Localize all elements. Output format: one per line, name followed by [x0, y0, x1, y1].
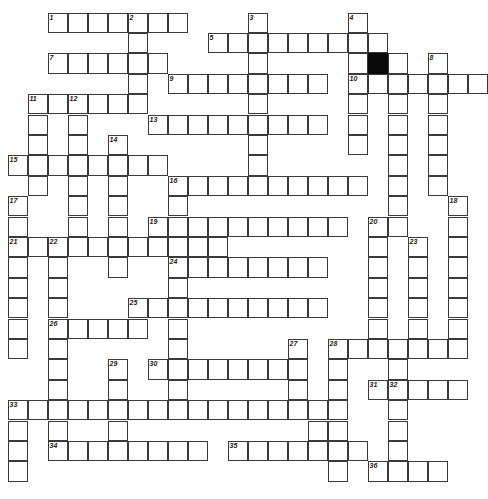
crossword-cell[interactable]	[308, 33, 328, 53]
crossword-cell[interactable]	[88, 155, 108, 175]
crossword-cell[interactable]	[68, 441, 88, 461]
crossword-cell[interactable]	[408, 74, 428, 94]
crossword-cell[interactable]	[208, 237, 228, 257]
crossword-cell[interactable]	[188, 298, 208, 318]
crossword-cell[interactable]	[388, 115, 408, 135]
crossword-cell[interactable]	[108, 217, 128, 237]
crossword-cell[interactable]	[428, 115, 448, 135]
crossword-cell[interactable]	[108, 53, 128, 73]
crossword-cell[interactable]	[308, 176, 328, 196]
crossword-cell[interactable]: 29	[108, 359, 128, 379]
crossword-cell[interactable]	[388, 94, 408, 114]
crossword-cell[interactable]	[188, 176, 208, 196]
crossword-cell[interactable]: 24	[168, 257, 188, 277]
crossword-cell[interactable]	[328, 400, 348, 420]
crossword-cell[interactable]: 5	[208, 33, 228, 53]
crossword-cell[interactable]	[28, 135, 48, 155]
crossword-cell[interactable]	[308, 257, 328, 277]
crossword-cell[interactable]	[348, 33, 368, 53]
crossword-cell[interactable]	[228, 115, 248, 135]
crossword-cell[interactable]	[408, 339, 428, 359]
crossword-cell[interactable]	[308, 298, 328, 318]
crossword-cell[interactable]	[188, 115, 208, 135]
crossword-cell[interactable]	[388, 421, 408, 441]
crossword-cell[interactable]	[108, 155, 128, 175]
crossword-cell[interactable]	[208, 74, 228, 94]
crossword-cell[interactable]	[268, 33, 288, 53]
crossword-cell[interactable]	[168, 339, 188, 359]
crossword-cell[interactable]	[448, 380, 468, 400]
crossword-cell[interactable]	[328, 461, 348, 481]
crossword-cell[interactable]	[248, 217, 268, 237]
crossword-cell[interactable]: 14	[108, 135, 128, 155]
crossword-cell[interactable]	[308, 421, 328, 441]
crossword-cell[interactable]	[268, 176, 288, 196]
crossword-cell[interactable]	[248, 298, 268, 318]
crossword-cell[interactable]	[128, 74, 148, 94]
crossword-cell[interactable]	[168, 441, 188, 461]
crossword-cell[interactable]	[168, 196, 188, 216]
crossword-cell[interactable]	[108, 400, 128, 420]
crossword-cell[interactable]: 31	[368, 380, 388, 400]
crossword-cell[interactable]	[88, 319, 108, 339]
crossword-cell[interactable]: 33	[8, 400, 28, 420]
crossword-cell[interactable]	[468, 74, 488, 94]
crossword-cell[interactable]	[188, 74, 208, 94]
crossword-cell[interactable]	[168, 319, 188, 339]
crossword-cell[interactable]	[8, 441, 28, 461]
crossword-cell[interactable]	[388, 176, 408, 196]
crossword-cell[interactable]	[348, 94, 368, 114]
crossword-cell[interactable]	[388, 74, 408, 94]
crossword-cell[interactable]	[428, 155, 448, 175]
crossword-cell[interactable]	[208, 217, 228, 237]
crossword-cell[interactable]	[8, 298, 28, 318]
crossword-cell[interactable]	[408, 257, 428, 277]
crossword-cell[interactable]	[328, 33, 348, 53]
crossword-cell[interactable]	[268, 74, 288, 94]
crossword-cell[interactable]	[148, 441, 168, 461]
crossword-cell[interactable]: 21	[8, 237, 28, 257]
crossword-cell[interactable]: 12	[68, 94, 88, 114]
crossword-cell[interactable]	[288, 441, 308, 461]
crossword-cell[interactable]	[68, 217, 88, 237]
crossword-cell[interactable]	[48, 257, 68, 277]
crossword-cell[interactable]	[68, 400, 88, 420]
crossword-cell[interactable]	[188, 400, 208, 420]
crossword-cell[interactable]	[268, 359, 288, 379]
crossword-cell[interactable]	[348, 441, 368, 461]
crossword-cell[interactable]: 28	[328, 339, 348, 359]
crossword-cell[interactable]	[168, 380, 188, 400]
crossword-cell[interactable]	[208, 298, 228, 318]
crossword-cell[interactable]	[228, 217, 248, 237]
crossword-cell[interactable]	[28, 155, 48, 175]
crossword-cell[interactable]	[68, 196, 88, 216]
crossword-cell[interactable]	[228, 359, 248, 379]
crossword-cell[interactable]	[48, 94, 68, 114]
crossword-cell[interactable]	[408, 461, 428, 481]
crossword-cell[interactable]	[108, 176, 128, 196]
crossword-cell[interactable]	[148, 13, 168, 33]
crossword-cell[interactable]	[68, 53, 88, 73]
crossword-cell[interactable]	[348, 53, 368, 73]
crossword-cell[interactable]	[88, 237, 108, 257]
crossword-cell[interactable]	[308, 441, 328, 461]
crossword-cell[interactable]	[188, 359, 208, 379]
crossword-cell[interactable]	[268, 115, 288, 135]
crossword-cell[interactable]	[28, 237, 48, 257]
crossword-cell[interactable]	[368, 278, 388, 298]
crossword-cell[interactable]: 10	[348, 74, 368, 94]
crossword-cell[interactable]	[388, 359, 408, 379]
crossword-cell[interactable]	[48, 400, 68, 420]
crossword-cell[interactable]	[88, 53, 108, 73]
crossword-cell[interactable]	[28, 115, 48, 135]
crossword-cell[interactable]	[448, 298, 468, 318]
crossword-cell[interactable]	[428, 176, 448, 196]
crossword-cell[interactable]	[108, 380, 128, 400]
crossword-cell[interactable]	[308, 115, 328, 135]
crossword-cell[interactable]	[148, 155, 168, 175]
crossword-cell[interactable]: 30	[148, 359, 168, 379]
crossword-cell[interactable]	[128, 94, 148, 114]
crossword-cell[interactable]	[288, 400, 308, 420]
crossword-cell[interactable]: 9	[168, 74, 188, 94]
crossword-cell[interactable]	[188, 257, 208, 277]
